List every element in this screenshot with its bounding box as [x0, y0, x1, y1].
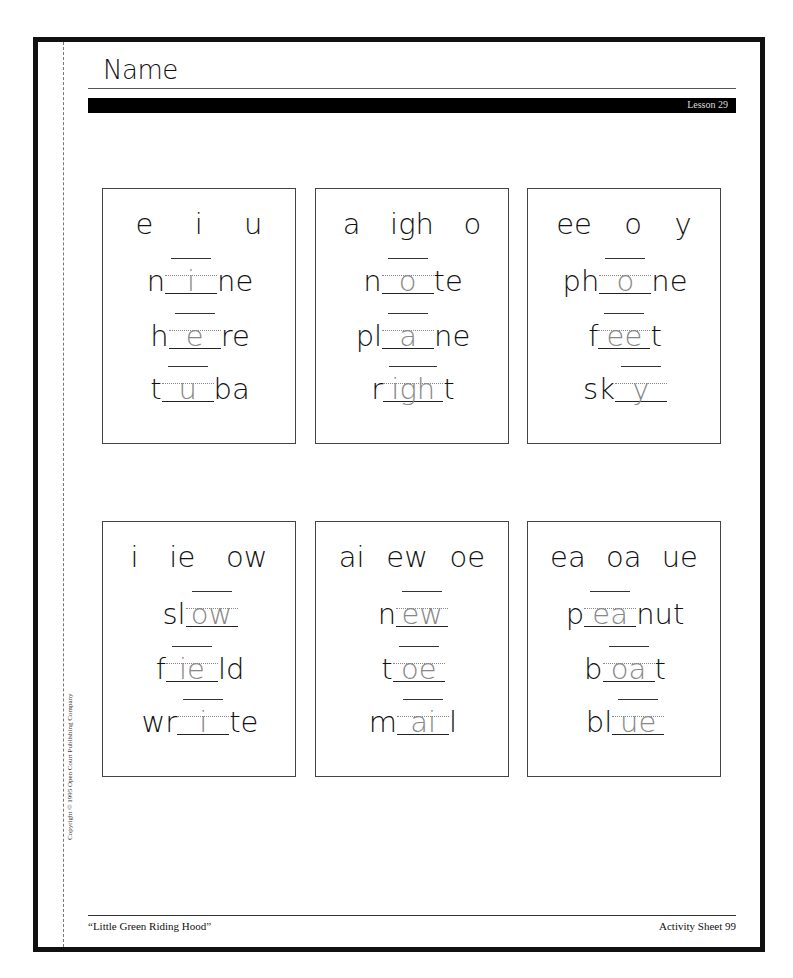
word-suffix: t: [655, 649, 666, 689]
answer-blank[interactable]: e: [169, 316, 221, 356]
lesson-number: Lesson 29: [687, 99, 728, 110]
traced-answer: ea: [592, 597, 628, 631]
choice-option: u: [244, 207, 262, 241]
word-row: peanut: [566, 594, 685, 634]
answer-blank[interactable]: ee: [598, 316, 650, 356]
answer-blank[interactable]: u: [162, 369, 214, 409]
top-guide-line: [168, 366, 208, 367]
word-suffix: ne: [651, 261, 687, 301]
traced-answer: igh: [391, 372, 435, 406]
top-guide-line: [183, 699, 223, 700]
word-prefix: n: [378, 594, 396, 634]
traced-answer: o: [399, 264, 417, 298]
word-suffix: ba: [214, 369, 250, 409]
exercise-card: iieowslowfieldwrite: [102, 521, 296, 777]
answer-blank[interactable]: i: [177, 702, 229, 742]
word-row: mail: [369, 702, 457, 742]
answer-blank[interactable]: o: [599, 261, 651, 301]
choice-option: o: [624, 207, 642, 241]
answer-blank[interactable]: ai: [397, 702, 449, 742]
word-row: nine: [147, 261, 254, 301]
word-suffix: ld: [218, 649, 244, 689]
activity-sheet-number: Activity Sheet 99: [659, 920, 736, 932]
answer-blank[interactable]: a: [382, 316, 434, 356]
word-prefix: sl: [162, 594, 185, 634]
word-prefix: f: [156, 649, 166, 689]
traced-answer: ew: [401, 597, 443, 631]
word-row: right: [371, 369, 454, 409]
choice-option: ue: [662, 540, 698, 574]
top-guide-line: [388, 313, 428, 314]
footer-divider: [88, 915, 736, 916]
top-guide-line: [402, 591, 442, 592]
word-prefix: f: [588, 316, 598, 356]
answer-blank[interactable]: ow: [186, 594, 238, 634]
word-prefix: sk: [583, 369, 615, 409]
choice-option: e: [136, 207, 154, 241]
name-write-line[interactable]: [88, 88, 736, 89]
answer-blank[interactable]: ew: [396, 594, 448, 634]
answer-blank[interactable]: ue: [612, 702, 664, 742]
word-suffix: nut: [636, 594, 684, 634]
story-title: “Little Green Riding Hood”: [88, 920, 211, 932]
answer-blank[interactable]: oe: [393, 649, 445, 689]
top-guide-line: [604, 313, 644, 314]
top-guide-line: [389, 366, 437, 367]
word-prefix: p: [566, 594, 584, 634]
word-row: toe: [381, 649, 444, 689]
word-prefix: t: [150, 369, 161, 409]
word-prefix: r: [371, 369, 383, 409]
copyright-notice: Copyright © 1995 Open Court Publishing C…: [66, 694, 74, 841]
top-guide-line: [605, 258, 645, 259]
cut-line: [63, 42, 64, 947]
choice-list: eaoaue: [528, 540, 720, 574]
word-row: here: [150, 316, 250, 356]
top-guide-line: [399, 646, 439, 647]
top-guide-line: [388, 258, 428, 259]
choice-option: ow: [226, 540, 267, 574]
choice-option: oa: [606, 540, 642, 574]
answer-blank[interactable]: o: [382, 261, 434, 301]
answer-blank[interactable]: y: [615, 369, 667, 409]
top-guide-line: [403, 699, 443, 700]
answer-blank[interactable]: oa: [603, 649, 655, 689]
word-row: sky: [583, 369, 667, 409]
answer-blank[interactable]: i: [165, 261, 217, 301]
page-border: [33, 37, 765, 952]
word-row: slow: [162, 594, 237, 634]
top-guide-line: [192, 591, 232, 592]
choice-list: aiewoe: [316, 540, 508, 574]
top-guide-line: [172, 646, 212, 647]
choice-option: y: [675, 207, 692, 241]
answer-blank[interactable]: ea: [584, 594, 636, 634]
name-label: Name: [103, 55, 178, 85]
top-guide-line: [621, 366, 661, 367]
word-suffix: t: [443, 369, 454, 409]
choice-option: i: [195, 207, 203, 241]
exercise-card: eiunineheretuba: [102, 188, 296, 444]
answer-blank[interactable]: igh: [383, 369, 443, 409]
word-prefix: ph: [562, 261, 599, 301]
word-row: tuba: [150, 369, 250, 409]
top-guide-line: [590, 591, 630, 592]
traced-answer: ai: [410, 705, 436, 739]
word-row: feet: [588, 316, 662, 356]
choice-option: ew: [386, 540, 428, 574]
traced-answer: y: [632, 372, 649, 406]
choice-list: iieow: [103, 540, 295, 574]
word-prefix: h: [150, 316, 168, 356]
choice-option: i: [130, 540, 138, 574]
word-suffix: t: [650, 316, 661, 356]
lesson-bar: Lesson 29: [88, 98, 736, 113]
traced-answer: e: [186, 319, 204, 353]
traced-answer: ee: [607, 319, 643, 353]
word-prefix: n: [147, 261, 165, 301]
traced-answer: oe: [401, 652, 437, 686]
choice-option: o: [463, 207, 481, 241]
top-guide-line: [175, 313, 215, 314]
choice-option: igh: [390, 207, 434, 241]
choice-option: oe: [450, 540, 486, 574]
answer-blank[interactable]: ie: [166, 649, 218, 689]
word-prefix: bl: [586, 702, 612, 742]
choice-option: ai: [339, 540, 365, 574]
